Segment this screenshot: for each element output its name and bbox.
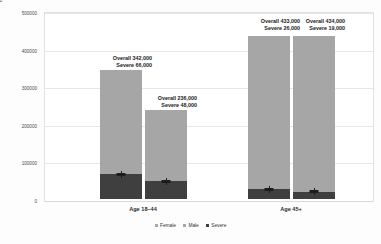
legend-item-male[interactable]: Male: [183, 223, 199, 228]
x-axis-label-age18-44: Age 18–44: [129, 206, 157, 212]
annotation-severe: Severe 19,000: [269, 25, 345, 32]
error-bar-marker: [265, 188, 274, 191]
bar-segment-overall: [248, 36, 290, 199]
y-tick-label-500000: 500000: [0, 11, 37, 16]
annotation-overall: Overall 434,000: [269, 18, 345, 25]
legend-label-male: Male: [188, 223, 198, 228]
legend-label-female: Female: [160, 223, 176, 228]
gridline-0: [45, 201, 373, 202]
bar-annotation-age18-44-male: Overall 236,000 Severe 48,000: [121, 95, 197, 109]
y-tick-label-400000: 400000: [0, 48, 37, 53]
legend-item-severe[interactable]: Severe: [206, 223, 227, 228]
bar-segment-overall: [293, 36, 335, 199]
gridline-500000: [45, 13, 373, 14]
y-tick-label-200000: 200000: [0, 123, 37, 128]
chart-container: Estimated Number of Adults (95% Confiden…: [0, 0, 381, 244]
annotation-overall: Overall 342,000: [76, 55, 152, 62]
annotation-severe: Severe 48,000: [121, 102, 197, 109]
y-tick-label-100000: 100000: [0, 161, 37, 166]
y-tick-label-300000: 300000: [0, 86, 37, 91]
error-bar-marker: [310, 190, 319, 193]
legend-label-severe: Severe: [211, 223, 226, 228]
legend: Female Male Severe: [0, 223, 381, 228]
annotation-overall: Overall 236,000: [121, 95, 197, 102]
legend-item-female[interactable]: Female: [155, 223, 176, 228]
error-bar-marker: [162, 180, 171, 183]
legend-swatch-female-icon: [155, 224, 158, 227]
bar-annotation-age18-44-female: Overall 342,000 Severe 66,000: [76, 55, 152, 69]
bar-age45plus-female[interactable]: [248, 36, 290, 199]
bar-age18-44-female[interactable]: [100, 70, 142, 199]
legend-swatch-severe-icon: [206, 224, 209, 227]
y-tick-label-0: 0: [0, 199, 37, 204]
bar-annotation-age45plus-male: Overall 434,000 Severe 19,000: [269, 18, 345, 32]
bar-age18-44-male[interactable]: [145, 110, 187, 199]
legend-swatch-male-icon: [183, 224, 186, 227]
error-bar-marker: [117, 173, 126, 176]
bar-age45plus-male[interactable]: [293, 36, 335, 199]
annotation-severe: Severe 66,000: [76, 62, 152, 69]
x-axis-label-age45plus: Age 45+: [280, 206, 302, 212]
plot-area: 500000 400000 300000 200000 100000 0 Ove…: [44, 12, 374, 202]
